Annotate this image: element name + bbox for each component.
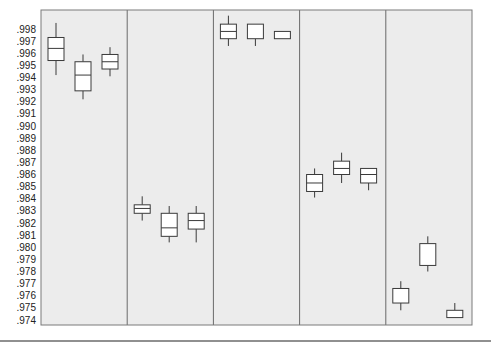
y-tick-label: .980	[17, 242, 37, 253]
y-tick-label: .989	[17, 133, 37, 144]
y-tick-label: .990	[17, 121, 37, 132]
y-tick-label: .998	[17, 24, 37, 35]
iqr-box	[334, 161, 350, 174]
y-tick-label: .984	[17, 193, 37, 204]
y-tick-label: .997	[17, 36, 37, 47]
iqr-box	[247, 24, 263, 39]
iqr-box	[420, 244, 436, 266]
box-3	[274, 31, 290, 38]
iqr-box	[274, 31, 290, 38]
iqr-box	[161, 213, 177, 236]
y-axis: .998.997.996.995.994.993.992.991.990.989…	[17, 24, 37, 326]
y-tick-label: .982	[17, 218, 37, 229]
y-tick-label: .993	[17, 84, 37, 95]
iqr-box	[134, 205, 150, 213]
y-tick-label: .978	[17, 266, 37, 277]
y-tick-label: .996	[17, 48, 37, 59]
box-plot-chart: .998.997.996.995.994.993.992.991.990.989…	[0, 0, 491, 343]
plot-panels	[41, 10, 472, 325]
y-tick-label: .988	[17, 145, 37, 156]
y-tick-label: .995	[17, 60, 37, 71]
iqr-box	[361, 168, 377, 183]
y-tick-label: .992	[17, 96, 37, 107]
y-tick-label: .975	[17, 302, 37, 313]
y-tick-label: .987	[17, 157, 37, 168]
y-tick-label: .981	[17, 230, 37, 241]
y-tick-label: .983	[17, 205, 37, 216]
y-tick-label: .976	[17, 290, 37, 301]
iqr-box	[188, 213, 204, 229]
y-tick-label: .985	[17, 181, 37, 192]
iqr-box	[75, 62, 91, 91]
y-tick-label: .977	[17, 278, 37, 289]
y-tick-label: .986	[17, 169, 37, 180]
y-tick-label: .991	[17, 108, 37, 119]
iqr-box	[393, 288, 409, 303]
iqr-box	[48, 37, 64, 60]
y-tick-label: .974	[17, 315, 37, 326]
y-tick-label: .994	[17, 72, 37, 83]
iqr-box	[447, 310, 463, 317]
y-tick-label: .979	[17, 254, 37, 265]
